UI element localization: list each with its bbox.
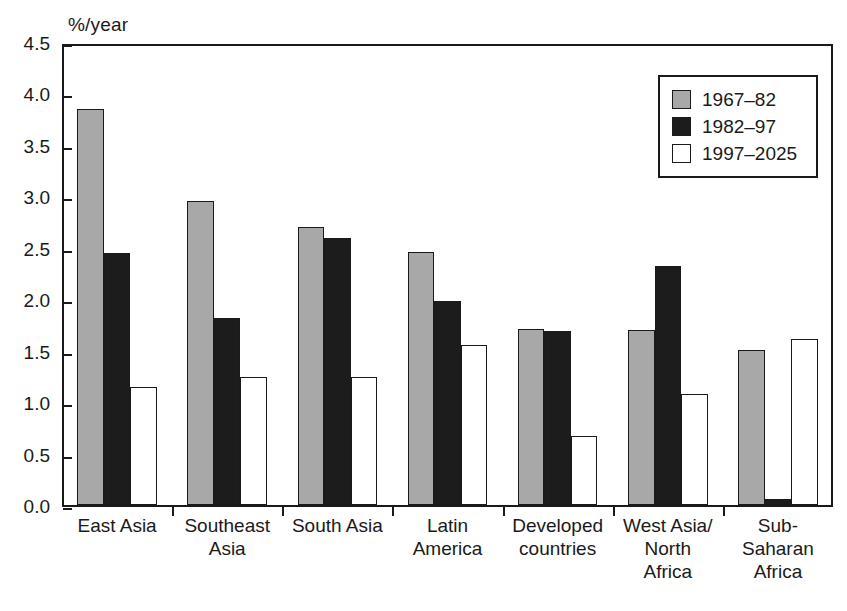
bar-group [408, 46, 488, 505]
bar [187, 201, 214, 505]
bar [240, 377, 267, 505]
y-axis-tick-label: 3.5 [0, 136, 50, 158]
bar [738, 350, 765, 505]
y-axis-tick-label: 2.5 [0, 239, 50, 261]
legend-swatch-1967-82-icon [672, 90, 691, 109]
legend-label: 1997–2025 [702, 143, 797, 165]
bar [434, 301, 461, 505]
bar [461, 345, 488, 506]
x-axis-category-label: Sub-SaharanAfrica [723, 514, 833, 583]
x-axis-category-label: Developedcountries [503, 514, 613, 560]
bar [130, 387, 157, 505]
bar [324, 238, 351, 506]
bar [104, 253, 131, 505]
y-axis-label: %/year [68, 14, 128, 36]
bar [681, 394, 708, 505]
y-axis-tick-label: 4.5 [0, 33, 50, 55]
bar [77, 109, 104, 505]
y-axis-tick-label: 1.0 [0, 393, 50, 415]
legend-item: 1997–2025 [672, 140, 806, 167]
x-axis-category-label: SoutheastAsia [172, 514, 282, 560]
bar-group [518, 46, 598, 505]
legend: 1967–82 1982–97 1997–2025 [658, 75, 818, 178]
bar-group [298, 46, 378, 505]
bar [571, 436, 598, 505]
legend-swatch-1997-2025-icon [672, 144, 691, 163]
legend-item: 1967–82 [672, 86, 806, 113]
x-axis-category-label: West Asia/NorthAfrica [613, 514, 723, 583]
x-axis-category-label: LatinAmerica [392, 514, 502, 560]
bar-group [187, 46, 267, 505]
y-axis-tick-label: 1.5 [0, 342, 50, 364]
chart-figure: %/year 0.00.51.01.52.02.53.03.54.04.5 Ea… [0, 0, 847, 611]
bar [518, 329, 545, 505]
y-axis-tick-label: 0.0 [0, 496, 50, 518]
legend-swatch-1982-97-icon [672, 117, 691, 136]
x-axis-category-label: South Asia [282, 514, 392, 537]
y-axis-tick-label: 3.0 [0, 187, 50, 209]
bar [628, 330, 655, 505]
legend-label: 1967–82 [702, 89, 776, 111]
bar [655, 266, 682, 505]
y-axis-tick-label: 0.5 [0, 445, 50, 467]
y-axis-tick-mark [63, 508, 72, 510]
legend-item: 1982–97 [672, 113, 806, 140]
bar [791, 339, 818, 505]
y-axis-tick-label: 4.0 [0, 84, 50, 106]
y-axis-tick-label: 2.0 [0, 290, 50, 312]
legend-label: 1982–97 [702, 116, 776, 138]
bar [298, 227, 325, 505]
bar-group [77, 46, 157, 505]
bar [765, 499, 792, 505]
bar [544, 331, 571, 505]
bar [351, 377, 378, 505]
bar [408, 252, 435, 505]
x-axis-category-label: East Asia [62, 514, 172, 537]
bar [214, 318, 241, 505]
